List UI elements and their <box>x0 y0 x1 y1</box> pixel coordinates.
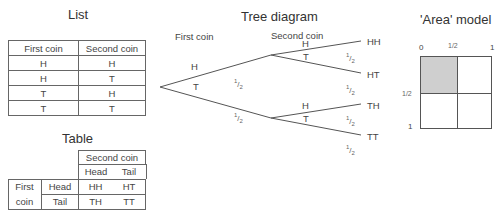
outcome-label: TT <box>367 131 379 142</box>
outcome-label: HT <box>367 69 380 80</box>
area-title: 'Area' model <box>420 12 491 27</box>
shaded-region <box>421 57 457 93</box>
branch-label: T <box>193 81 199 92</box>
branch-label: T <box>303 113 309 124</box>
area-grid <box>420 56 492 129</box>
y-tick: 1 <box>408 122 412 131</box>
prob-label: 1/2 <box>346 52 355 64</box>
x-tick: 1/2 <box>448 42 458 49</box>
branch-label: H <box>302 100 309 111</box>
outcome-label: HH <box>367 36 381 47</box>
prob-label: 1/2 <box>234 112 243 124</box>
prob-label: 1/2 <box>346 115 355 127</box>
branch-label: H <box>191 61 198 72</box>
x-tick: 1 <box>490 43 494 52</box>
outcome-label: TH <box>367 100 380 111</box>
x-tick: 0 <box>419 43 423 52</box>
prob-label: 1/2 <box>346 144 355 156</box>
branch-label: H <box>302 38 309 49</box>
y-tick: 1/2 <box>402 90 412 97</box>
prob-label: 1/2 <box>346 84 355 96</box>
prob-label: 1/2 <box>234 78 243 90</box>
branch-label: T <box>303 51 309 62</box>
